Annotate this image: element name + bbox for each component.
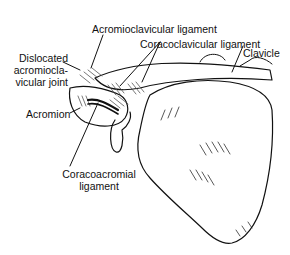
scapula-outline	[138, 81, 273, 244]
label-coracoacromial-ligament: Coracoacromial ligament	[60, 168, 138, 192]
coracoid-shape	[111, 112, 131, 152]
diagram-canvas: Acromioclavicular ligament Coracoclavicu…	[0, 0, 290, 255]
label-clavicle: Clavicle	[243, 47, 280, 59]
label-acromion: Acromion	[26, 108, 70, 120]
leader-acromioclavicular	[91, 35, 103, 68]
label-dislocated-joint: Dislocated acromiocla- vicular joint	[10, 52, 68, 88]
label-acromioclavicular-ligament: Acromioclavicular ligament	[92, 23, 217, 35]
